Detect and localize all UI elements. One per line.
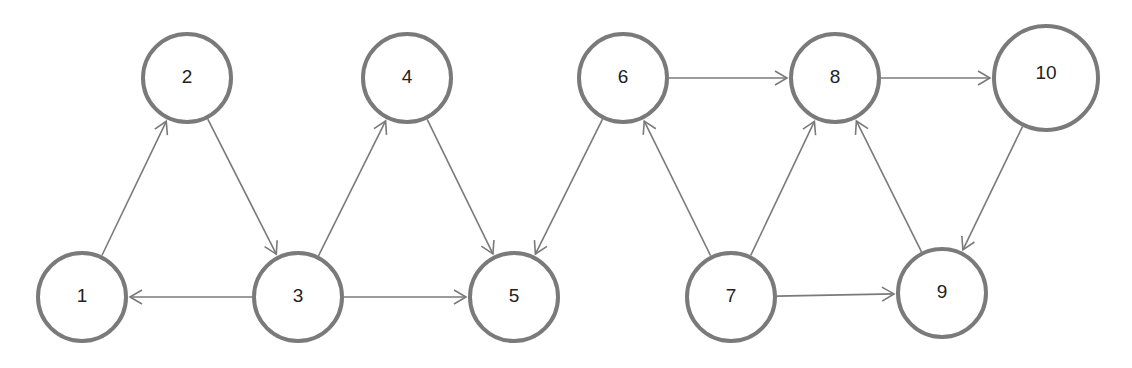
node-label: 8 (830, 66, 841, 87)
node-label: 3 (293, 285, 304, 306)
node-label: 6 (618, 66, 629, 87)
edge-7-to-8 (751, 121, 816, 255)
node-6: 6 (579, 34, 667, 122)
edge-9-to-8 (855, 121, 921, 252)
edge-3-to-4 (318, 121, 386, 256)
edge-line (644, 121, 710, 256)
node-label: 5 (509, 285, 520, 306)
node-4: 4 (363, 34, 451, 122)
edge-6-to-5 (534, 119, 602, 254)
node-9: 9 (898, 249, 986, 337)
edge-7-to-6 (643, 121, 710, 256)
edge-line (318, 121, 385, 256)
node-5: 5 (470, 253, 558, 341)
graph-diagram: 12345678910 (0, 0, 1132, 368)
node-label: 2 (182, 66, 193, 87)
edge-line (856, 121, 921, 252)
node-label: 1 (77, 285, 88, 306)
edge-7-to-9 (777, 287, 894, 301)
node-label: 9 (937, 281, 948, 302)
edge-6-to-8 (669, 71, 787, 85)
node-label: 4 (402, 66, 413, 87)
edge-line (777, 294, 894, 296)
edge-line (427, 119, 493, 254)
node-label: 10 (1035, 62, 1056, 83)
node-8: 8 (791, 34, 879, 122)
edge-line (963, 127, 1023, 250)
edge-line (535, 119, 602, 254)
edge-1-to-2 (102, 121, 167, 255)
edge-line (102, 121, 166, 255)
graph-canvas: 12345678910 (0, 0, 1132, 368)
edge-line (208, 119, 277, 254)
node-7: 7 (687, 253, 775, 341)
node-3: 3 (254, 253, 342, 341)
node-1: 1 (38, 253, 126, 341)
edge-line (751, 121, 815, 255)
node-2: 2 (143, 34, 231, 122)
edge-3-to-5 (344, 290, 466, 304)
node-10: 10 (994, 26, 1098, 130)
edge-10-to-9 (962, 127, 1023, 250)
node-label: 7 (726, 285, 737, 306)
edge-2-to-3 (208, 119, 277, 254)
edge-3-to-1 (130, 290, 252, 304)
edge-4-to-5 (427, 119, 494, 254)
edge-8-to-10 (881, 71, 990, 85)
